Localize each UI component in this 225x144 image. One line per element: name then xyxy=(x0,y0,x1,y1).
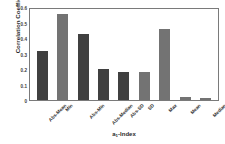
bar-slot xyxy=(93,9,113,100)
bar-slot xyxy=(114,9,134,100)
bar-slot xyxy=(32,9,52,100)
bar-slot xyxy=(134,9,154,100)
bar xyxy=(37,51,48,100)
x-axis-title-subscript: 1 xyxy=(116,133,118,138)
x-axis-title-rest: -Index xyxy=(118,131,136,137)
bar xyxy=(57,14,68,100)
bar-slot xyxy=(196,9,216,100)
x-tick-label: Max xyxy=(168,103,178,113)
y-axis-tick-labels: 00.10.20.30.40.50.6 xyxy=(14,8,28,101)
bar-slot xyxy=(155,9,175,100)
bar-slot xyxy=(73,9,93,100)
x-axis-title: a1-Index xyxy=(29,131,219,137)
bar xyxy=(118,72,129,100)
y-tick-label: 0.3 xyxy=(21,52,27,57)
x-tick-label: Mean xyxy=(190,103,202,115)
x-tick-label: Median xyxy=(211,103,225,118)
y-tick-label: 0.1 xyxy=(21,83,27,88)
y-tick-label: 0.5 xyxy=(21,21,27,26)
x-tick-label: Abs-Mean xyxy=(48,103,68,123)
y-tick-label: 0.4 xyxy=(21,37,27,42)
y-tick-label: 0.2 xyxy=(21,68,27,73)
bar xyxy=(139,72,150,100)
bar xyxy=(200,98,211,100)
bar xyxy=(78,34,89,100)
plot-area xyxy=(29,8,219,101)
y-tick-label: 0 xyxy=(24,99,27,104)
bar xyxy=(159,29,170,100)
bar-series xyxy=(30,9,218,100)
x-axis-tick-labels: Abs-MeanMinAbs-MinAbs-MedianAbs-SDSDMaxM… xyxy=(29,101,219,129)
y-tick-label: 0.6 xyxy=(21,6,27,11)
bar xyxy=(180,97,191,100)
bar-slot xyxy=(52,9,72,100)
x-tick-label: Abs-Min xyxy=(88,103,105,120)
bar xyxy=(98,69,109,100)
x-tick-label: SD xyxy=(147,103,155,111)
bar-slot xyxy=(175,9,195,100)
bar-chart-figure: Correlation Coefficient 00.10.20.30.40.5… xyxy=(0,0,225,144)
